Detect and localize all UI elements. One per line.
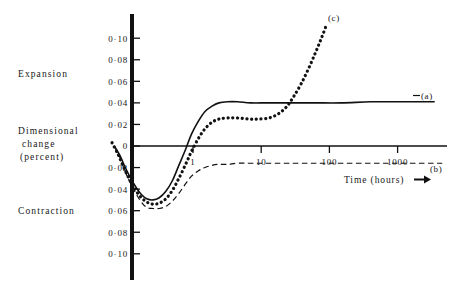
y-axis-title-line2: change bbox=[22, 139, 56, 149]
expansion-label: Expansion bbox=[18, 69, 68, 79]
dimensional-change-chart: 1101001000 0·100·080·060·040·0200·020·04… bbox=[0, 0, 463, 293]
curve-label-a: (a) bbox=[421, 91, 433, 101]
x-tick-label-10: 10 bbox=[256, 157, 267, 167]
curve-label-c: (c) bbox=[328, 13, 340, 23]
x-tick-label-1000: 1000 bbox=[387, 157, 408, 167]
x-tick-label-100: 100 bbox=[321, 157, 337, 167]
curve-label-b: (b) bbox=[430, 164, 442, 174]
y-tick-label-exp-2: 0·06 bbox=[108, 77, 128, 87]
y-tick-label-exp-4: 0·02 bbox=[108, 120, 128, 130]
y-tick-label-exp-3: 0·04 bbox=[108, 98, 128, 108]
x-tick-label-1: 1 bbox=[190, 157, 195, 167]
y-tick-label-con-1: 0·04 bbox=[108, 185, 128, 195]
contraction-label: Contraction bbox=[18, 206, 75, 216]
y-tick-label-con-3: 0·08 bbox=[108, 228, 128, 238]
y-axis-title-line3: (percent) bbox=[20, 152, 64, 163]
y-tick-label-zero: 0 bbox=[123, 141, 128, 151]
y-axis-title-line1: Dimensional bbox=[18, 126, 79, 136]
x-axis-title: Time (hours) bbox=[344, 175, 404, 186]
y-tick-label-con-4: 0·10 bbox=[108, 249, 128, 259]
y-tick-label-exp-0: 0·10 bbox=[108, 34, 128, 44]
y-tick-label-exp-1: 0·08 bbox=[108, 55, 128, 65]
y-tick-label-con-2: 0·06 bbox=[108, 206, 128, 216]
